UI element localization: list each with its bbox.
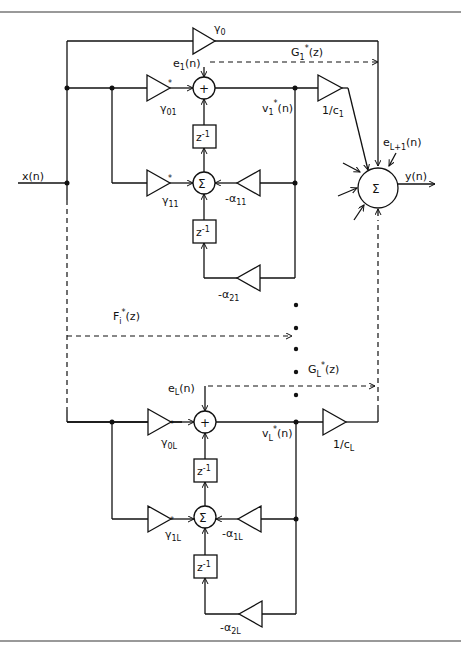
- output-label: y(n): [405, 170, 427, 183]
- direct-path: [67, 28, 378, 166]
- gamma0L-star: *: [170, 420, 174, 429]
- gain-alpha2L-triangle: [239, 601, 262, 627]
- c1-label: 1/c1: [322, 104, 344, 119]
- section-1: [67, 62, 378, 291]
- output-sigma-label: Σ: [372, 182, 380, 196]
- gamma01-label: γ01: [160, 102, 177, 117]
- alpha2L-label: -α2L: [220, 621, 241, 636]
- summer-1-sigma: Σ: [198, 177, 206, 191]
- gamma1L-label: γ1L: [165, 528, 182, 543]
- summer-L-sigma: Σ: [199, 511, 207, 525]
- GL-label: GL*(z): [308, 361, 339, 379]
- G1-label: G1*(z): [291, 44, 323, 62]
- output-summer: [338, 153, 435, 410]
- scale-1-triangle: [318, 75, 342, 101]
- gain-alpha1L-triangle: [238, 506, 261, 532]
- lattice-filter-block-diagram: x(n) y(n) γ0 eL+1(n) Σ e1(n) G1*(z) + * …: [0, 0, 461, 651]
- F-label: Fi*(z): [113, 308, 140, 326]
- alpha11-label: -α11: [225, 192, 246, 207]
- alpha21-label: -α21: [218, 288, 239, 303]
- adder-1-plus: +: [199, 82, 209, 96]
- alpha1L-label: -α1L: [222, 527, 243, 542]
- vL-label: vL*(n): [262, 425, 293, 443]
- gain-alpha11-triangle: [237, 170, 260, 196]
- cL-label: 1/cL: [333, 438, 355, 453]
- eL1-label: eL+1(n): [383, 136, 422, 152]
- section-L: [67, 386, 378, 627]
- e1-label: e1(n): [173, 57, 200, 72]
- gamma01-star: *: [168, 79, 172, 88]
- eL-label: eL(n): [168, 382, 195, 397]
- gamma0L-label: γ0L: [161, 436, 178, 451]
- gamma1L-star: *: [170, 516, 174, 525]
- gain-alpha21-triangle: [237, 265, 260, 291]
- gain-gamma01-triangle: [147, 75, 170, 101]
- gamma0-label: γ0: [214, 22, 226, 37]
- input-label: x(n): [22, 170, 44, 183]
- ellipsis-dots: [294, 303, 298, 397]
- adder-L-plus: +: [200, 416, 210, 430]
- gamma11-star: *: [168, 174, 172, 183]
- input-path: [18, 41, 182, 422]
- gain-gamma11-triangle: [147, 170, 170, 196]
- gamma11-label: γ11: [162, 194, 179, 209]
- v1-label: v1*(n): [262, 99, 293, 117]
- gain-gamma0L-triangle: [148, 409, 171, 435]
- scale-L-triangle: [323, 409, 346, 435]
- gain-gamma0-triangle: [193, 28, 215, 54]
